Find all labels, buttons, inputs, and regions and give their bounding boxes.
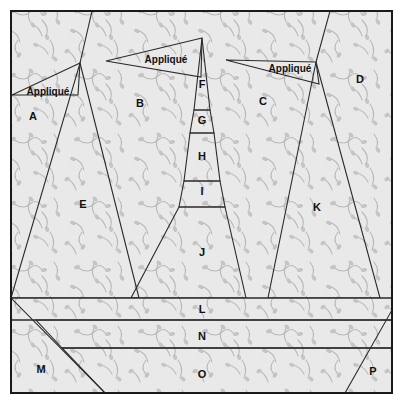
quilt-block-diagram: A B C D E F G H I J K L M N O P Appliqué… bbox=[0, 0, 403, 404]
piece-label-O: O bbox=[198, 368, 207, 380]
piece-label-M: M bbox=[36, 363, 45, 375]
piece-label-G: G bbox=[198, 114, 207, 126]
piece-label-B: B bbox=[136, 97, 144, 109]
piece-label-L: L bbox=[199, 303, 206, 315]
quilt-block-svg: A B C D E F G H I J K L M N O P Appliqué… bbox=[0, 0, 403, 404]
piece-label-H: H bbox=[198, 150, 206, 162]
piece-label-D: D bbox=[356, 73, 364, 85]
piece-label-C: C bbox=[259, 95, 267, 107]
applique-label-center: Appliqué bbox=[145, 54, 188, 65]
piece-label-J: J bbox=[199, 246, 205, 258]
piece-label-A: A bbox=[29, 110, 37, 122]
applique-label-left: Appliqué bbox=[27, 86, 70, 97]
piece-label-E: E bbox=[79, 198, 86, 210]
piece-label-K: K bbox=[313, 201, 321, 213]
piece-label-N: N bbox=[198, 330, 206, 342]
piece-label-I: I bbox=[200, 185, 203, 197]
piece-label-F: F bbox=[199, 78, 206, 90]
piece-label-P: P bbox=[369, 365, 376, 377]
applique-label-right: Appliqué bbox=[269, 63, 312, 74]
